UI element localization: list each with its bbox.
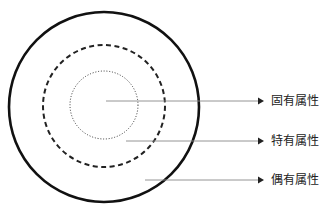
- label-inherent-attribute: 固有属性: [271, 94, 319, 108]
- arrow-inner: [106, 98, 264, 105]
- arrow-middle: [126, 138, 264, 145]
- middle-circle: [43, 45, 165, 167]
- label-specific-attribute: 特有属性: [271, 134, 319, 148]
- inner-circle: [70, 71, 138, 139]
- label-accidental-attribute: 偶有属性: [271, 173, 319, 187]
- outer-circle: [9, 12, 199, 202]
- diagram: 固有属性 特有属性 偶有属性: [0, 0, 323, 216]
